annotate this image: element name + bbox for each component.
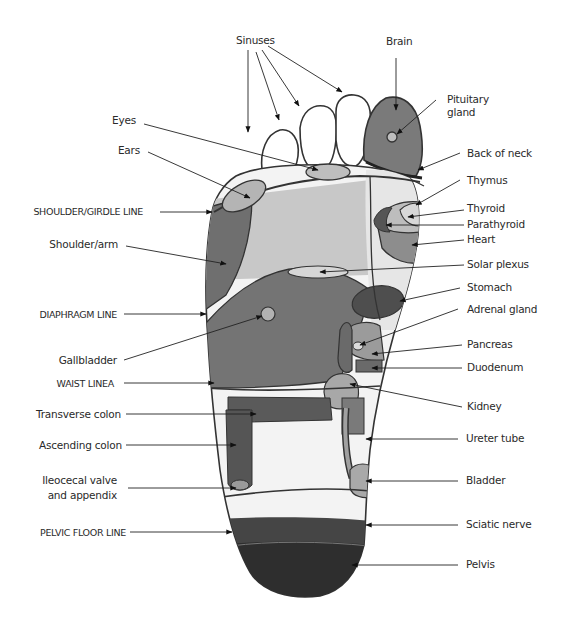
pituitary-gland-dot bbox=[387, 132, 397, 142]
label-gland: gland bbox=[447, 106, 475, 118]
label-shoulder-arm: Shoulder/arm bbox=[49, 238, 118, 250]
gallbladder-zone bbox=[261, 307, 275, 321]
label-shoulder-girdle-line: SHOULDER/GIRDLE LINE bbox=[33, 206, 143, 217]
labels-left: Eyes Ears SHOULDER/GIRDLE LINE Shoulder/… bbox=[33, 114, 143, 538]
label-ascending-colon: Ascending colon bbox=[39, 439, 122, 451]
foot-reflexology-diagram: Sinuses Brain Eyes Ears SHOULDER/GIRDLE … bbox=[0, 0, 565, 621]
solar-plexus-zone bbox=[288, 266, 348, 278]
label-sinuses: Sinuses bbox=[236, 34, 275, 46]
label-duodenum: Duodenum bbox=[467, 361, 523, 373]
label-parathyroid: Parathyroid bbox=[467, 218, 525, 230]
label-back-of-neck: Back of neck bbox=[467, 147, 533, 159]
eyes-zone bbox=[306, 164, 350, 180]
label-heart: Heart bbox=[467, 233, 495, 245]
ascending-colon-zone bbox=[226, 410, 252, 490]
label-eyes: Eyes bbox=[112, 114, 136, 126]
label-appendix: and appendix bbox=[48, 489, 117, 501]
label-bladder: Bladder bbox=[466, 474, 506, 486]
label-pelvic-floor-line: PELVIC FLOOR LINE bbox=[40, 527, 126, 538]
duodenum-zone bbox=[356, 360, 382, 372]
pancreas-zone bbox=[348, 323, 384, 361]
pelvis-zone bbox=[200, 542, 380, 611]
left-kidney-outline bbox=[338, 323, 352, 373]
labels-top: Sinuses Brain bbox=[236, 34, 413, 47]
label-pelvis: Pelvis bbox=[466, 558, 495, 570]
label-thymus: Thymus bbox=[466, 174, 507, 186]
ileocecal-valve-zone bbox=[231, 480, 249, 490]
label-sciatic-nerve: Sciatic nerve bbox=[466, 518, 531, 530]
label-stomach: Stomach bbox=[467, 281, 512, 293]
label-brain: Brain bbox=[386, 35, 413, 47]
label-adrenal-gland: Adrenal gland bbox=[467, 303, 537, 315]
label-pancreas: Pancreas bbox=[467, 338, 513, 350]
third-toe bbox=[300, 106, 337, 170]
label-thyroid: Thyroid bbox=[466, 202, 505, 214]
label-transverse-colon: Transverse colon bbox=[35, 408, 121, 420]
label-diaphragm-line: DIAPHRAGM LINE bbox=[39, 309, 117, 320]
label-waist-line: WAIST LINEA bbox=[57, 378, 115, 389]
foot bbox=[200, 95, 430, 610]
label-ears: Ears bbox=[118, 144, 140, 156]
label-solar-plexus: Solar plexus bbox=[467, 258, 529, 270]
label-kidney: Kidney bbox=[467, 400, 502, 412]
label-ileocecal-valve: Ileocecal valve bbox=[42, 474, 117, 486]
label-pituitary: Pituitary bbox=[447, 93, 489, 105]
adrenal-gland-zone bbox=[353, 342, 363, 350]
label-gallbladder: Gallbladder bbox=[59, 354, 118, 366]
label-ureter-tube: Ureter tube bbox=[466, 432, 524, 444]
labels-right: Pituitary gland Back of neck Thymus Thyr… bbox=[447, 93, 537, 570]
